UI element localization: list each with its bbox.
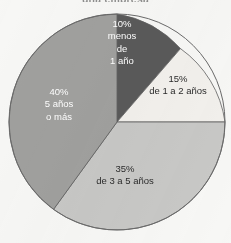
pie-chart-graphic [0, 0, 231, 243]
pie-chart-figure: una empresa 10% menos de 1 año 15% de 1 … [0, 0, 231, 243]
